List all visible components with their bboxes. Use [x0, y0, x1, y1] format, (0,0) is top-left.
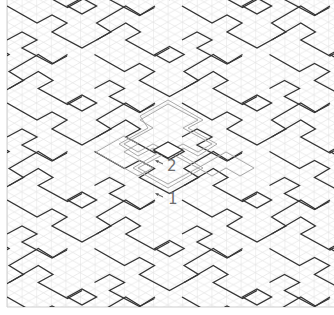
label-2: 2	[167, 159, 177, 174]
label-1: 1	[168, 192, 178, 207]
